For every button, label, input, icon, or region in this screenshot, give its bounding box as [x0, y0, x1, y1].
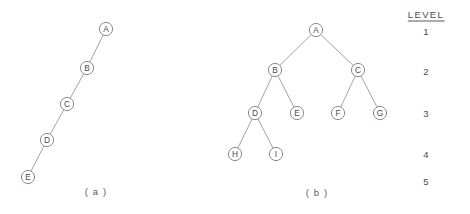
- tree-node-a-C[interactable]: C: [60, 97, 73, 110]
- tree-node-a-A[interactable]: A: [99, 22, 112, 35]
- node-label-b-I: I: [275, 149, 277, 159]
- tree-edge-a-A-B: [90, 35, 103, 62]
- tree-edge-a-C-D: [50, 110, 64, 134]
- tree-node-b-E[interactable]: E: [290, 106, 303, 119]
- level-number-2: 2: [423, 66, 428, 77]
- tree-edge-b-A-C: [321, 35, 353, 66]
- node-label-b-A: A: [313, 25, 319, 35]
- node-label-a-E: E: [25, 172, 31, 182]
- tree-graphics-layer: ABCDE ABCDEFGHI: [0, 0, 470, 214]
- tree-node-b-B[interactable]: B: [268, 63, 281, 76]
- node-label-b-F: F: [335, 108, 340, 118]
- diagram-b-edges: [238, 35, 377, 149]
- tree-edge-b-C-G: [361, 76, 377, 107]
- tree-node-b-I[interactable]: I: [269, 147, 282, 160]
- diagram-b-caption: ( b ): [306, 187, 328, 198]
- tree-edge-a-D-E: [31, 146, 44, 171]
- node-label-b-D: D: [252, 108, 258, 118]
- tree-node-b-G[interactable]: G: [373, 106, 386, 119]
- node-label-a-A: A: [103, 24, 109, 34]
- node-label-a-C: C: [64, 99, 70, 109]
- tree-node-b-A[interactable]: A: [309, 23, 322, 36]
- node-label-b-C: C: [355, 65, 361, 75]
- node-label-a-B: B: [84, 63, 90, 73]
- tree-edge-b-B-E: [278, 76, 294, 107]
- tree-node-b-H[interactable]: H: [228, 147, 241, 160]
- level-number-3: 3: [423, 108, 428, 119]
- level-column-header: LEVEL: [408, 9, 445, 22]
- node-label-a-D: D: [44, 135, 50, 145]
- tree-edge-a-B-C: [70, 74, 84, 98]
- level-number-4: 4: [423, 149, 428, 160]
- tree-node-b-D[interactable]: D: [248, 106, 261, 119]
- tree-edge-b-C-F: [341, 76, 355, 107]
- figure-canvas: ABCDE ABCDEFGHI ( a ) ( b ) LEVEL 12345: [0, 0, 470, 214]
- tree-node-a-D[interactable]: D: [40, 133, 53, 146]
- level-number-5: 5: [423, 176, 428, 187]
- tree-edge-b-D-H: [238, 119, 252, 148]
- tree-node-a-B[interactable]: B: [80, 61, 93, 74]
- tree-node-b-C[interactable]: C: [351, 63, 364, 76]
- diagram-b-nodes: ABCDEFGHI: [228, 23, 386, 160]
- diagram-a-nodes: ABCDE: [21, 22, 112, 183]
- tree-edge-b-D-I: [258, 119, 273, 148]
- tree-edge-b-B-D: [258, 76, 272, 107]
- tree-node-a-E[interactable]: E: [21, 170, 34, 183]
- diagram-a-caption: ( a ): [85, 186, 107, 197]
- tree-node-b-F[interactable]: F: [331, 106, 344, 119]
- level-number-1: 1: [423, 26, 428, 37]
- tree-edge-b-A-B: [280, 35, 312, 66]
- node-label-b-H: H: [232, 149, 238, 159]
- node-label-b-B: B: [272, 65, 278, 75]
- node-label-b-G: G: [377, 108, 384, 118]
- node-label-b-E: E: [294, 108, 300, 118]
